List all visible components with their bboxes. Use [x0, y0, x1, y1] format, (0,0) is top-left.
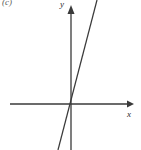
figure-container: (c) y x	[0, 0, 141, 150]
x-axis-arrow-icon	[127, 101, 134, 108]
linear-function-line	[58, 0, 97, 150]
x-axis-label: x	[127, 110, 131, 119]
y-axis-arrow-icon	[68, 5, 75, 14]
data-series-group	[58, 0, 97, 150]
coordinate-plot	[0, 0, 141, 150]
axes-group	[10, 5, 134, 150]
y-axis-label: y	[60, 0, 64, 9]
